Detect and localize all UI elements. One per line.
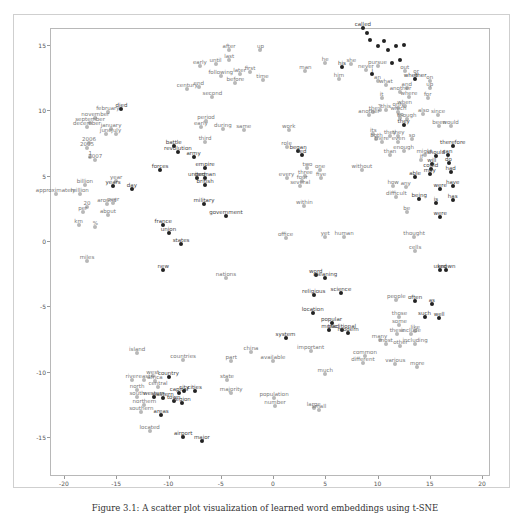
point-label: therefore bbox=[440, 139, 465, 145]
point-label: miles bbox=[80, 254, 95, 259]
y-tick-label: -10 bbox=[24, 368, 46, 375]
point-label: any bbox=[401, 181, 411, 187]
point-label: cells bbox=[409, 245, 421, 251]
point-label: five bbox=[316, 172, 326, 178]
point-label: day bbox=[127, 182, 137, 188]
data-point bbox=[398, 58, 402, 62]
point-label: early bbox=[194, 121, 208, 127]
point-label: those bbox=[392, 311, 407, 317]
point-label: state bbox=[220, 373, 234, 379]
point-label: system bbox=[276, 331, 296, 337]
y-tick-label: -15 bbox=[24, 434, 46, 441]
point-label: there bbox=[374, 135, 389, 141]
point-label: called bbox=[355, 21, 371, 27]
y-tick-label: -5 bbox=[24, 303, 46, 310]
point-label: able bbox=[409, 171, 421, 177]
data-point bbox=[376, 44, 380, 48]
point-label: difficult bbox=[386, 190, 407, 196]
point-label: whether bbox=[404, 72, 427, 78]
point-label: region bbox=[173, 397, 190, 403]
x-tick-mark bbox=[64, 476, 65, 479]
point-label: areas bbox=[154, 409, 169, 415]
data-point bbox=[365, 31, 369, 35]
point-label: without bbox=[351, 164, 372, 170]
point-label: yet bbox=[321, 231, 330, 237]
point-label: out bbox=[400, 65, 409, 71]
x-tick-label: -15 bbox=[111, 480, 121, 487]
point-label: union bbox=[161, 227, 176, 233]
point-label: km bbox=[74, 219, 83, 225]
point-label: since bbox=[431, 109, 445, 115]
point-label: % bbox=[93, 220, 98, 226]
point-label: important bbox=[297, 345, 324, 351]
point-label: if bbox=[420, 154, 423, 160]
point-label: they bbox=[397, 118, 409, 124]
x-tick-label: -10 bbox=[164, 480, 174, 487]
point-label: it bbox=[380, 92, 384, 98]
point-label: even bbox=[392, 135, 406, 141]
point-label: various bbox=[385, 358, 405, 364]
point-label: people bbox=[387, 294, 406, 300]
x-tick-label: 15 bbox=[426, 480, 434, 487]
point-label: meaning bbox=[313, 271, 337, 277]
point-label: located bbox=[140, 424, 160, 430]
point-label: british bbox=[196, 178, 213, 184]
point-label: france bbox=[155, 219, 172, 225]
point-label: much bbox=[318, 368, 333, 374]
x-tick-mark bbox=[273, 476, 274, 479]
point-label: billion bbox=[77, 178, 93, 184]
point-label: has bbox=[448, 194, 458, 200]
point-label: some bbox=[392, 318, 407, 324]
y-tick-mark bbox=[47, 372, 50, 373]
x-tick-mark bbox=[116, 476, 117, 479]
point-label: number bbox=[264, 399, 285, 405]
point-label: one bbox=[315, 164, 325, 170]
data-point bbox=[368, 38, 372, 42]
point-label: different bbox=[351, 356, 374, 362]
point-label: military bbox=[194, 198, 215, 204]
point-label: end bbox=[194, 80, 204, 86]
point-label: northern bbox=[133, 398, 157, 404]
point-label: central bbox=[148, 381, 167, 387]
point-label: first bbox=[245, 66, 256, 72]
point-label: available bbox=[261, 355, 286, 361]
point-label: last bbox=[224, 54, 234, 60]
point-label: up bbox=[257, 44, 264, 50]
point-label: several bbox=[290, 180, 310, 186]
point-label: early bbox=[193, 59, 207, 65]
point-label: enough bbox=[393, 144, 414, 150]
x-tick-label: -5 bbox=[218, 480, 224, 487]
point-label: years bbox=[106, 180, 121, 186]
point-label: can bbox=[443, 148, 453, 154]
point-label: same bbox=[236, 123, 251, 129]
point-label: modern bbox=[338, 326, 359, 332]
point-label: forces bbox=[152, 164, 169, 170]
point-label: about bbox=[100, 209, 116, 215]
point-label: countries bbox=[170, 354, 196, 360]
point-label: this bbox=[381, 104, 391, 110]
y-tick-mark bbox=[47, 110, 50, 111]
point-label: before bbox=[227, 76, 245, 82]
point-label: per bbox=[78, 206, 87, 212]
y-tick-mark bbox=[47, 45, 50, 46]
point-label: were bbox=[433, 211, 446, 217]
y-tick-label: 15 bbox=[24, 41, 46, 48]
y-tick-mark bbox=[47, 176, 50, 177]
data-point bbox=[394, 44, 398, 48]
point-label: population bbox=[259, 392, 288, 398]
point-label: being bbox=[412, 193, 427, 199]
x-tick-label: 5 bbox=[323, 480, 327, 487]
point-label: army bbox=[187, 151, 201, 157]
point-label: he bbox=[322, 57, 329, 63]
point-label: nations bbox=[216, 271, 236, 277]
point-label: southern bbox=[129, 406, 153, 412]
point-label: do bbox=[445, 156, 452, 162]
y-tick-label: 0 bbox=[24, 238, 46, 245]
point-label: states bbox=[173, 237, 190, 243]
point-label: time bbox=[256, 74, 268, 80]
point-label: approximately bbox=[36, 188, 76, 194]
point-label: his bbox=[338, 61, 346, 67]
point-label: new bbox=[158, 263, 169, 269]
point-label: died bbox=[116, 103, 128, 109]
point-label: work bbox=[282, 123, 295, 129]
